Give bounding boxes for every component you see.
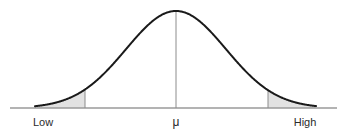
x-axis-label-low: Low: [17, 116, 69, 129]
normal-distribution-figure: Low μ High: [0, 0, 347, 136]
x-axis-label-high: High: [279, 116, 331, 129]
x-axis-label-mean: μ: [150, 116, 202, 129]
